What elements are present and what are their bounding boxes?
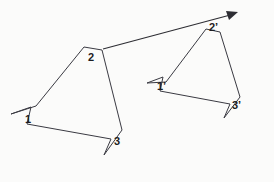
vertex-label-1-prime: 1’ [157,81,166,92]
preimage-polygon [11,47,122,155]
translation-vector-arrowhead-icon [226,11,238,20]
image-polygon [147,29,240,118]
vertex-label-3: 3 [114,136,120,147]
geometry-figure [0,0,274,182]
vertex-label-2-prime: 2’ [209,22,218,33]
vertex-label-1: 1 [25,114,31,125]
vertex-label-3-prime: 3’ [232,100,241,111]
vertex-label-2: 2 [88,52,94,63]
diagram-canvas: 1 2 3 1’ 2’ 3’ [0,0,274,182]
